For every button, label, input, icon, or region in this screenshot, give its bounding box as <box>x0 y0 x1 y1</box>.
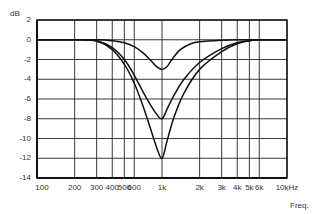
x-tick-label: 6k <box>255 184 263 192</box>
x-tick-label: 4k <box>233 184 241 192</box>
x-tick-label: 100 <box>35 184 48 192</box>
x-tick-label: 10kHz <box>276 184 299 192</box>
x-tick-label: 3k <box>217 184 225 192</box>
chart-grid <box>37 20 287 178</box>
y-tick-label: -14 <box>7 174 31 182</box>
y-tick-label: -6 <box>7 95 31 103</box>
x-axis-label: Freq. <box>290 202 309 210</box>
x-tick-label: 200 <box>68 184 81 192</box>
x-tick-label: 5k <box>245 184 253 192</box>
y-tick-label: -8 <box>7 115 31 123</box>
y-tick-label: 0 <box>7 36 31 44</box>
x-tick-label: 600 <box>128 184 141 192</box>
frequency-response-chart <box>0 0 313 214</box>
y-tick-label: -4 <box>7 75 31 83</box>
x-tick-label: 300 <box>90 184 103 192</box>
x-tick-label: 2k <box>195 184 203 192</box>
y-tick-label: -10 <box>7 135 31 143</box>
y-tick-label: -2 <box>7 56 31 64</box>
y-tick-label: -12 <box>7 154 31 162</box>
x-tick-label: 1k <box>158 184 166 192</box>
y-tick-label: 2 <box>7 16 31 24</box>
